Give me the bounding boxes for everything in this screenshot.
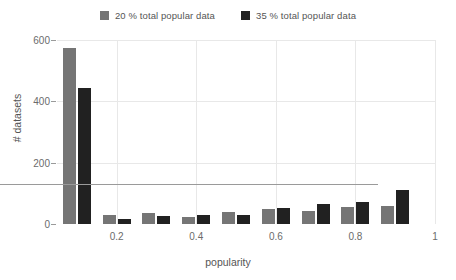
bar[interactable] [262,209,275,224]
bar[interactable] [302,211,315,224]
bar[interactable] [317,204,330,224]
x-tick-label: 0.4 [189,231,203,242]
legend-entry[interactable]: 20 % total popular data [100,10,215,21]
bar[interactable] [78,88,91,224]
bar[interactable] [277,208,290,224]
x-axis-tick-labels: 0.20.40.60.81 [57,231,435,245]
y-tick-label: 0 [44,219,50,230]
y-tick-mark [51,163,56,164]
bar[interactable] [182,217,195,224]
x-axis-title: popularity [0,256,456,268]
bar[interactable] [396,190,409,224]
y-tick-label: 400 [33,96,50,107]
bar-group [262,40,290,224]
chart-legend: 20 % total popular data35 % total popula… [0,10,456,21]
bar[interactable] [157,216,170,224]
y-tick-mark [51,224,56,225]
bar[interactable] [237,215,250,224]
bar[interactable] [222,212,235,224]
x-tick-label: 0.2 [110,231,124,242]
y-axis-tick-labels: 0200400600 [0,40,50,224]
bar-group [341,40,369,224]
x-tick-label: 0.6 [269,231,283,242]
gridline-vertical [435,40,436,224]
x-tick-label: 0.8 [348,231,362,242]
y-tick-label: 200 [33,157,50,168]
legend-swatch-icon [241,11,250,20]
bar[interactable] [118,219,131,224]
legend-label: 20 % total popular data [115,10,215,21]
bar-group [182,40,210,224]
x-axis-line [0,184,378,185]
y-tick-mark [51,101,56,102]
bar[interactable] [341,207,354,224]
legend-swatch-icon [100,11,109,20]
legend-label: 35 % total popular data [256,10,356,21]
legend-entry[interactable]: 35 % total popular data [241,10,356,21]
y-tick-mark [51,40,56,41]
bar[interactable] [63,48,76,224]
bar[interactable] [356,202,369,224]
bar-group [302,40,330,224]
bar[interactable] [103,215,116,225]
bar-group [63,40,91,224]
bar[interactable] [142,213,155,224]
x-tick-label: 1 [432,231,438,242]
bar-group [222,40,250,224]
bar-group [103,40,131,224]
y-axis-title: # datasets [11,73,23,163]
bar[interactable] [381,206,394,224]
bar-group [142,40,170,224]
bar[interactable] [197,215,210,224]
y-tick-label: 600 [33,35,50,46]
bar-group [381,40,409,224]
bar-chart-figure: 20 % total popular data35 % total popula… [0,0,456,280]
plot-area [57,40,435,224]
